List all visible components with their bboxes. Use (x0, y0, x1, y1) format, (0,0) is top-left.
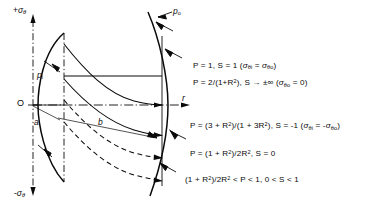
curve-sigma-theta-o-zero (64, 44, 162, 105)
curve-inequality-band (64, 122, 162, 181)
y-axis-bottom-label: -σθ (14, 189, 25, 199)
annotation-curve-5-tail: < P < 1, 0 < S < 1 (231, 175, 299, 184)
external-pressure-label: po (173, 7, 181, 17)
radius-b-dimension (58, 118, 157, 138)
y-axis-arrowhead-down (30, 187, 35, 196)
annotation-curve-2-arrow: → (252, 78, 260, 87)
x-axis-label: r (182, 94, 185, 103)
annotation-curve-5-lead: (1 + R (185, 175, 208, 184)
annotation-curve-3-mid2: ), S = -1 ( (268, 121, 304, 130)
annotation-curve-2-tail: = 0) (290, 78, 307, 87)
annotation-curve-3-tail: ) (337, 121, 340, 130)
annotation-curve-3-lead: P = (3 + R (190, 121, 228, 130)
annotation-curve-2-mid2: ±∞ ( (261, 78, 279, 87)
annotation-curve-3: P = (3 + R2)/(1 + 3R2), S = -1 (σθi = -σ… (190, 122, 340, 131)
annotation-curve-2: P = 2/(1+R2), S → ±∞ (σθo = 0) (193, 79, 308, 88)
y-axis-arrowhead-up (30, 14, 35, 23)
annotation-curve-4: P = (1 + R2)/2R2, S = 0 (190, 150, 275, 158)
inner-bore-arc (38, 33, 64, 182)
annotation-curve-4-mid: )/2R (232, 149, 248, 158)
stress-distribution-figure (0, 0, 367, 210)
annotation-curve-1-tail: ) (274, 61, 277, 70)
internal-pressure-subscript: i (42, 74, 43, 80)
annotation-curve-3-mid3: = - (313, 121, 326, 130)
inner-radius-label: a (34, 118, 39, 127)
outer-radius-label: b (98, 118, 103, 127)
external-pressure-subscript: o (178, 10, 181, 16)
annotation-curve-1-lead: P = 1, S = 1 ( (193, 61, 243, 70)
annotation-curve-4-lead: P = (1 + R (190, 149, 228, 158)
internal-pressure-label: pi (37, 71, 43, 81)
y-axis-top-label: +σθ (13, 6, 26, 16)
curve-s-equals-minus-1 (64, 79, 162, 136)
annotation-curve-1: P = 1, S = 1 (σθi = σθo) (193, 62, 276, 71)
x-axis-arrowhead (181, 102, 190, 107)
annotation-curve-5-mid: )/2R (211, 175, 227, 184)
origin-label: O (17, 99, 24, 108)
annotation-curve-2-mid: ), S (237, 78, 253, 87)
annotation-curve-4-tail: , S = 0 (251, 149, 276, 158)
annotation-curve-2-lead: P = 2/(1+R (193, 78, 234, 87)
external-pressure-leader (158, 12, 172, 19)
annotation-curve-1-mid: = (252, 61, 262, 70)
annotation-curve-5: (1 + R2)/2R2 < P < 1, 0 < S < 1 (185, 176, 299, 184)
annotation-curve-3-mid: )/(1 + 3R (232, 121, 265, 130)
